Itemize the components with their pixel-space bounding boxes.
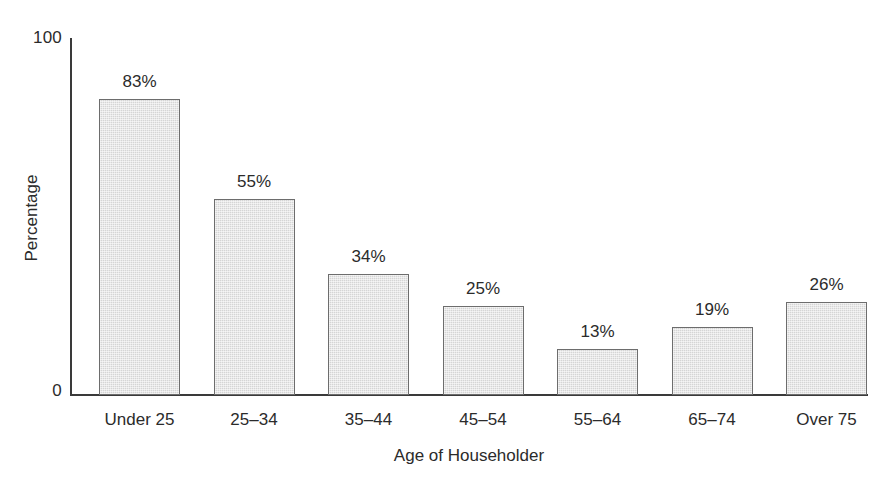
x-tick-label: Under 25: [75, 410, 204, 430]
x-tick-label: 45–54: [419, 410, 548, 430]
y-axis-title: Percentage: [22, 123, 42, 313]
bar-group: 13%55–64: [557, 38, 638, 395]
bar[interactable]: [99, 99, 180, 395]
bar-group: 25%45–54: [443, 38, 524, 395]
plot-area: 83%Under 2555%25–3434%35–4425%45–5413%55…: [72, 38, 868, 395]
bar-chart-figure: 100 0 Percentage Age of Householder 83%U…: [0, 0, 892, 489]
bar-group: 19%65–74: [672, 38, 753, 395]
bar-value-label: 26%: [764, 275, 889, 295]
bar-value-label: 34%: [306, 247, 431, 267]
bar[interactable]: [214, 199, 295, 395]
bar-value-label: 25%: [421, 279, 546, 299]
bar-value-label: 83%: [77, 72, 202, 92]
bar[interactable]: [672, 327, 753, 395]
bar-value-label: 19%: [650, 300, 775, 320]
x-tick-label: Over 75: [762, 410, 891, 430]
bar[interactable]: [443, 306, 524, 395]
bar-group: 26%Over 75: [786, 38, 867, 395]
x-tick-label: 35–44: [304, 410, 433, 430]
y-tick-label-0: 0: [52, 381, 62, 401]
bar-group: 55%25–34: [214, 38, 295, 395]
bar[interactable]: [328, 274, 409, 395]
x-axis-title: Age of Householder: [70, 446, 868, 466]
bar-group: 34%35–44: [328, 38, 409, 395]
bar[interactable]: [786, 302, 867, 395]
bar-group: 83%Under 25: [99, 38, 180, 395]
x-tick-label: 55–64: [533, 410, 662, 430]
x-tick-label: 25–34: [190, 410, 319, 430]
x-tick-label: 65–74: [648, 410, 777, 430]
y-tick-label-100: 100: [33, 28, 62, 48]
bar-value-label: 55%: [192, 172, 317, 192]
bar[interactable]: [557, 349, 638, 395]
bar-value-label: 13%: [535, 322, 660, 342]
